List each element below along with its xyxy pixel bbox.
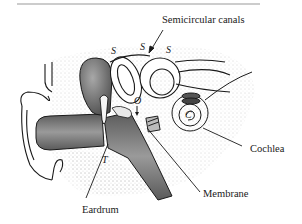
label-eardrum: Eardrum [82, 205, 119, 216]
letter-s-middle: S [140, 42, 145, 52]
label-semicircular-canals: Semicircular canals [162, 15, 245, 26]
ear-illustration [0, 0, 302, 224]
ear-diagram: Semicircular canals Cochlea Membrane Ear… [0, 0, 302, 224]
label-cochlea: Cochlea [250, 144, 284, 155]
label-membrane: Membrane [203, 189, 248, 200]
letter-t: T [102, 155, 108, 165]
letter-o: O [134, 96, 141, 106]
ear-canal [36, 114, 104, 150]
letter-s-left: S [111, 46, 116, 56]
letter-c: C [185, 110, 192, 120]
letter-s-right: S [166, 45, 171, 55]
